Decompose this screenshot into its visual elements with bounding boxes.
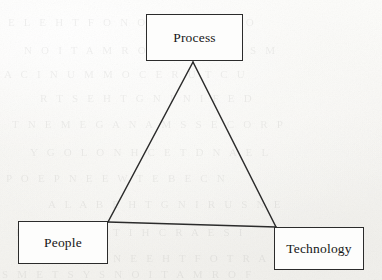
edge-process-people <box>108 62 193 222</box>
node-process-label: Process <box>173 30 216 44</box>
node-technology[interactable]: Technology <box>274 227 364 270</box>
node-people[interactable]: People <box>18 221 108 264</box>
node-process[interactable]: Process <box>146 14 243 61</box>
diagram-canvas: E L E H T F O N O I T A R E P O N O I T … <box>0 0 382 280</box>
node-technology-label: Technology <box>286 241 352 255</box>
edge-process-technology <box>193 62 276 227</box>
edge-people-technology <box>108 222 276 227</box>
node-people-label: People <box>44 235 82 249</box>
